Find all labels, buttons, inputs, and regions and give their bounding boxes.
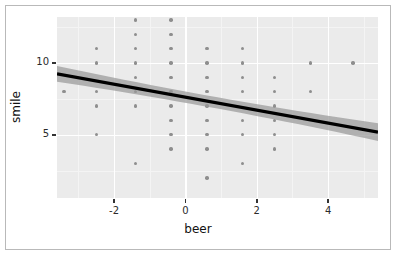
regression-line xyxy=(57,17,378,198)
x-axis-tick xyxy=(185,199,187,203)
x-axis-tick xyxy=(327,199,329,203)
y-axis-tick-label: 10 xyxy=(15,56,49,67)
x-axis-tick-label: 0 xyxy=(165,205,205,216)
x-axis-title: beer xyxy=(0,222,396,236)
x-axis-tick-label: -2 xyxy=(94,205,134,216)
y-axis-tick xyxy=(52,62,56,64)
plot-panel xyxy=(57,17,378,198)
x-axis-tick xyxy=(113,199,115,203)
x-axis-tick xyxy=(256,199,258,203)
y-axis-tick xyxy=(52,134,56,136)
scatterplot-figure: 510-2024 beer smile xyxy=(0,0,396,255)
x-axis-tick-label: 2 xyxy=(237,205,277,216)
y-axis-title: smile xyxy=(9,77,23,137)
x-axis-tick-label: 4 xyxy=(308,205,348,216)
